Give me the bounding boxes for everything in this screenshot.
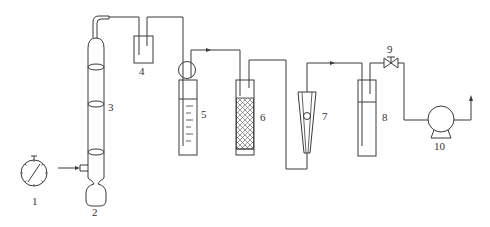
label-6: 6 bbox=[260, 111, 266, 123]
flow-arrow-icon bbox=[206, 48, 211, 52]
graduated-absorption-cylinder: 5 bbox=[179, 62, 208, 156]
pressure-gauge-icon: 1 bbox=[21, 156, 47, 207]
exhaust-arrow-icon bbox=[469, 95, 473, 101]
valve-icon: 9 bbox=[384, 43, 398, 68]
label-3: 3 bbox=[108, 101, 114, 113]
vacuum-pump-icon: 10 bbox=[428, 106, 454, 152]
process-diagram: 1 3 2 4 bbox=[0, 0, 490, 227]
buffer-bottle: 4 bbox=[134, 17, 183, 77]
inlet-arrow-icon bbox=[58, 166, 80, 170]
label-8: 8 bbox=[382, 111, 388, 123]
label-10: 10 bbox=[434, 140, 446, 152]
label-1: 1 bbox=[32, 195, 38, 207]
label-4: 4 bbox=[139, 65, 145, 77]
label-9: 9 bbox=[387, 43, 393, 55]
flow-arrow-icon bbox=[330, 61, 335, 65]
bottom-bulb-flask: 2 bbox=[86, 184, 106, 218]
packed-column: 3 bbox=[80, 38, 114, 184]
rotameter-flowmeter: 7 bbox=[298, 92, 328, 153]
label-7: 7 bbox=[322, 110, 328, 122]
label-2: 2 bbox=[92, 206, 98, 218]
label-5: 5 bbox=[201, 108, 207, 120]
